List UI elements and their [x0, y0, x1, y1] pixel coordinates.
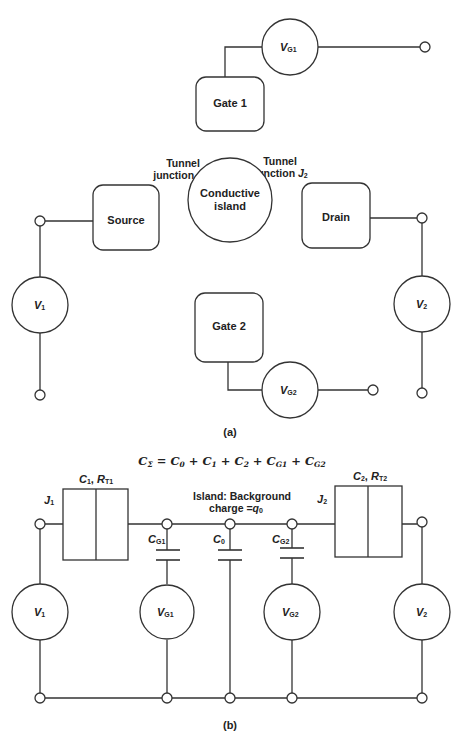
gate1-label: Gate 1	[213, 97, 247, 109]
single-electron-transistor-figure: VG1 Gate 1 Tunnel junction J1 Tunnel jun…	[0, 0, 464, 738]
cg1-label: CG1	[148, 533, 165, 545]
junction1-line1: Tunnel	[166, 157, 200, 169]
bottom-node-vg2	[287, 693, 297, 703]
cg2-node	[287, 519, 297, 529]
j2-label: J2	[317, 493, 327, 505]
vg1-terminal	[420, 42, 430, 52]
gate2-label: Gate 2	[212, 320, 246, 332]
island-label-line2: island	[214, 200, 246, 212]
schematic-a: VG1 Gate 1 Tunnel junction J1 Tunnel jun…	[12, 19, 450, 438]
v2-bottom-terminal	[417, 388, 427, 398]
caption-b: (b)	[223, 719, 237, 731]
source-label: Source	[107, 214, 144, 226]
caption-a: (a)	[223, 426, 237, 438]
j1-node	[35, 519, 45, 529]
bottom-node-c0	[225, 693, 235, 703]
total-capacitance-formula: CΣ = C0 + C1 + C2 + CG1 + CG2	[138, 454, 325, 469]
gate2-wire	[228, 362, 262, 390]
bottom-node-vg1	[162, 693, 172, 703]
j2-node	[417, 517, 427, 527]
c0-label: C0	[213, 533, 225, 545]
junction2-line1: Tunnel	[263, 155, 297, 167]
c0-capacitor	[218, 529, 242, 693]
drain-label: Drain	[322, 211, 350, 223]
v1-bottom-terminal	[35, 390, 45, 400]
j1-label: J1	[44, 494, 54, 506]
island-label-line1: Conductive	[200, 187, 260, 199]
c1-rt1-label: C1, RT1	[79, 473, 113, 485]
c0-node	[225, 519, 235, 529]
bottom-node-v2	[417, 693, 427, 703]
cg1-node	[162, 519, 172, 529]
bottom-node-v1	[35, 693, 45, 703]
schematic-b: CΣ = C0 + C1 + C2 + CG1 + CG2 C1, RT1 J1…	[12, 454, 450, 731]
v1-top-terminal	[35, 216, 45, 226]
gate1-wire	[225, 47, 262, 77]
island-background-label-line2: charge =q0	[209, 502, 263, 514]
vg2-terminal	[368, 385, 378, 395]
v2-top-terminal	[417, 213, 427, 223]
c2-rt2-label: C2, RT2	[353, 470, 387, 482]
island-background-label-line1: Island: Background	[193, 490, 291, 502]
cg2-label: CG2	[272, 533, 289, 545]
